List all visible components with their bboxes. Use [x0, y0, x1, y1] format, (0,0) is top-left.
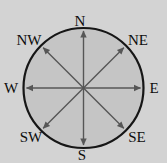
- label-south: S: [78, 147, 86, 163]
- label-southwest: SW: [20, 129, 43, 145]
- label-northwest: NW: [17, 32, 43, 48]
- compass-rose: N NE E SE S SW W NW: [0, 0, 167, 163]
- label-north: N: [75, 13, 86, 29]
- compass-figure: N NE E SE S SW W NW: [0, 0, 167, 163]
- label-northeast: NE: [128, 32, 148, 48]
- label-west: W: [4, 80, 19, 96]
- label-southeast: SE: [128, 129, 146, 145]
- label-east: E: [149, 80, 158, 96]
